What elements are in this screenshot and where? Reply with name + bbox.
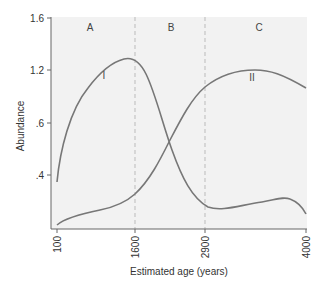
series-II-label: II xyxy=(249,72,255,83)
y-tick-label: 1.2 xyxy=(30,65,44,76)
x-axis-title: Estimated age (years) xyxy=(130,266,228,277)
x-tick-label: 4000 xyxy=(301,236,312,259)
zone-label-c: C xyxy=(255,22,262,33)
x-ticks: 100 1600 2900 4000 xyxy=(52,229,312,258)
zone-label-a: A xyxy=(87,22,94,33)
y-tick-label: .4 xyxy=(36,170,45,181)
x-tick-label: 100 xyxy=(52,236,63,253)
chart: 1.6 1.2 .6 .4 100 1600 2900 4000 Abundan… xyxy=(0,0,326,286)
y-axis-title: Abundance xyxy=(15,100,26,151)
series-I-label: I xyxy=(103,70,106,81)
y-tick-label: 1.6 xyxy=(30,13,44,24)
y-ticks: 1.6 1.2 .6 .4 xyxy=(30,13,51,181)
zone-label-b: B xyxy=(168,22,175,33)
x-tick-label: 2900 xyxy=(200,236,211,259)
x-tick-label: 1600 xyxy=(130,236,141,259)
y-tick-label: .6 xyxy=(36,118,45,129)
